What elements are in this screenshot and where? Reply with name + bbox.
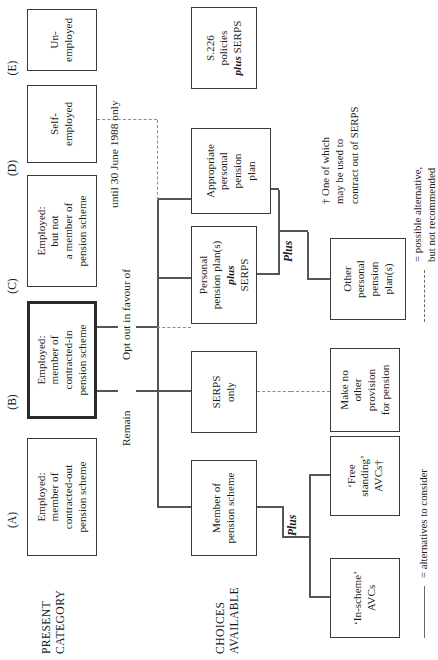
connector-to-other-ppp	[307, 232, 309, 280]
choice-ppp-line1: Personal	[197, 256, 209, 295]
choice-box-s226-policies-plus-serps[interactable]: S.226 policies plus SERPS	[191, 7, 257, 89]
choice-ppp-line2: pension plan(s)	[210, 241, 222, 310]
choice-box-appropriate-ppp-label: Appropriate personal pension plan	[204, 144, 259, 198]
diagram-canvas: PRESENT CATEGORY CHOICES AVAILABLE (A) (…	[0, 0, 438, 660]
category-box-e-label: Un- employed	[48, 18, 75, 62]
connector-plus-avcs-bus	[309, 476, 311, 598]
connector-to-appropriate-ppp-box	[157, 198, 191, 200]
secondary-box-make-no-other-provision[interactable]: Make no other provision for pension	[330, 348, 400, 432]
category-box-c-label: Employed: but not a member of pension sc…	[35, 195, 90, 266]
category-box-d-label: Self- employed	[48, 102, 75, 146]
connector-optout-drop	[136, 326, 158, 328]
connector-ppp-serps-down	[257, 273, 279, 275]
edge-label-opt-out: Opt out in favour of	[120, 269, 132, 360]
choice-s226-line3: SERPS	[231, 20, 243, 56]
connector-to-serps-only-box	[157, 390, 191, 392]
column-header-e: (E)	[6, 32, 19, 104]
choice-s226-line2: policies	[217, 31, 229, 66]
connector-to-free-standing-avcs	[309, 474, 331, 476]
edge-label-until-1988: until 30 June 1988 only	[108, 100, 120, 208]
legend-dashed-text: = possible alternative, but not recommen…	[410, 52, 438, 262]
row-label-present-category: PRESENT CATEGORY	[40, 566, 69, 654]
column-header-d: (D)	[6, 132, 19, 204]
choice-box-appropriate-personal-pension-plan[interactable]: Appropriate personal pension plan	[191, 128, 271, 214]
row-label-choices-available: CHOICES AVAILABLE	[214, 566, 243, 654]
choice-s226-emph: plus	[231, 56, 243, 75]
connector-b-optout-stub	[97, 326, 118, 328]
column-header-a: (A)	[6, 484, 19, 556]
connector-to-member-box	[157, 506, 191, 508]
connector-dashed-optout-riser	[157, 327, 191, 328]
secondary-box-no-provision-label: Make no other provision for pension	[338, 365, 393, 416]
connector-remain-bus	[157, 328, 159, 508]
choice-box-serps-only-label: SERPS only	[210, 376, 237, 409]
choice-ppp-line3: SERPS	[238, 259, 250, 292]
secondary-box-in-scheme-avcs-label: ‘In-scheme’ AVCs	[351, 571, 378, 625]
choice-box-member-label: Member of pension scheme	[210, 472, 237, 543]
connector-other-ppp-bus	[278, 190, 280, 275]
category-box-a[interactable]: Employed: member of contracted-out pensi…	[27, 438, 97, 556]
category-box-c[interactable]: Employed: but not a member of pension sc…	[27, 175, 97, 287]
edge-label-remain: Remain	[120, 411, 132, 446]
connector-member-down	[257, 506, 283, 508]
connector-remain-drop	[136, 390, 158, 392]
secondary-box-free-standing-avcs[interactable]: ‘Free standing’ AVCs†	[330, 436, 400, 516]
choice-box-member-of-pension-scheme[interactable]: Member of pension scheme	[191, 460, 257, 556]
secondary-box-other-ppp-label: Other personal pension plan(s)	[341, 260, 396, 298]
secondary-box-in-scheme-avcs[interactable]: ‘In-scheme’ AVCs	[330, 558, 400, 638]
category-box-b[interactable]: Employed: member of contracted-in pensio…	[27, 301, 97, 419]
connector-dashed-serps-to-noprovision	[257, 391, 291, 392]
column-header-b: (B)	[6, 366, 19, 438]
connector-plus-other-ppp-drop	[278, 230, 308, 232]
connector-to-ppp-serps-box	[157, 277, 191, 279]
legend-solid-line	[424, 586, 425, 638]
secondary-box-free-standing-avcs-label: ‘Free standing’ AVCs†	[345, 455, 386, 497]
connector-dashed-s226-riser	[97, 119, 157, 120]
plus-label-avcs: Plus	[286, 515, 299, 536]
secondary-box-other-personal-pension-plans[interactable]: Other personal pension plan(s)	[330, 238, 406, 320]
diagram-stage: PRESENT CATEGORY CHOICES AVAILABLE (A) (…	[0, 0, 438, 660]
choice-box-serps-only[interactable]: SERPS only	[191, 351, 257, 433]
category-box-e[interactable]: Un- employed	[27, 9, 97, 71]
plus-label-other-ppp: Plus	[282, 241, 295, 262]
category-box-a-label: Employed: member of contracted-out pensi…	[35, 461, 90, 532]
category-box-b-label: Employed: member of contracted-in pensio…	[35, 324, 90, 395]
category-box-d[interactable]: Self- employed	[27, 85, 97, 163]
connector-dashed-noprovision-riser	[291, 391, 330, 392]
connector-optout-bus	[157, 200, 159, 328]
connector-other-ppp-riser	[307, 278, 331, 280]
connector-plus-avcs-drop	[282, 536, 310, 538]
choice-s226-line1: S.226	[204, 35, 216, 61]
choice-box-personal-pension-plans-plus-serps[interactable]: Personal pension plan(s) plus SERPS	[191, 226, 257, 324]
connector-b-remain-stub	[97, 390, 118, 392]
connector-member-to-plus	[282, 506, 284, 538]
connector-dashed-s226-bus	[157, 120, 158, 200]
footnote-dagger-text: † One of which may be used to contract o…	[318, 14, 361, 204]
connector-to-in-scheme-avcs	[309, 596, 331, 598]
legend-solid-text: = alternatives to consider	[416, 388, 430, 578]
column-header-c: (C)	[6, 250, 19, 322]
choice-ppp-emph: plus	[224, 265, 236, 284]
legend-dashed-line	[424, 270, 425, 322]
